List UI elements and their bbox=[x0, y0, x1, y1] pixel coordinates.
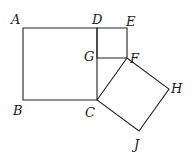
geometry-diagram: A B C D E F G H J bbox=[0, 0, 192, 153]
label-f: F bbox=[129, 51, 140, 66]
label-j: J bbox=[131, 137, 140, 152]
label-h: H bbox=[170, 81, 183, 96]
label-c: C bbox=[85, 105, 95, 120]
label-a: A bbox=[10, 12, 20, 27]
label-g: G bbox=[84, 49, 94, 64]
square-cfhj bbox=[97, 58, 169, 131]
square-abcd bbox=[23, 28, 97, 100]
label-e: E bbox=[125, 14, 136, 29]
square-degf bbox=[97, 28, 127, 58]
label-d: D bbox=[91, 12, 103, 27]
label-b: B bbox=[12, 103, 23, 118]
